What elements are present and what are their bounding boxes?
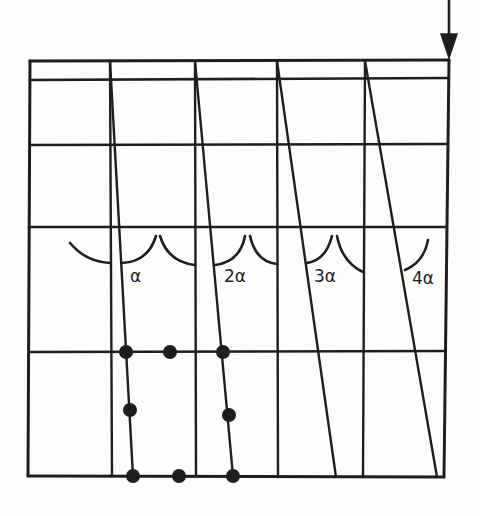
node-bot-3 xyxy=(226,469,240,483)
angle-label-2alpha: 2α xyxy=(224,268,246,285)
node-bot-1 xyxy=(126,469,140,483)
node-mid-2 xyxy=(222,408,236,422)
sheared-diagonal-lines xyxy=(110,61,437,477)
load-arrow-icon xyxy=(441,0,457,58)
angle-arcs xyxy=(70,236,428,272)
node-top-1 xyxy=(119,345,133,359)
horizontal-grid-lines xyxy=(29,78,448,352)
node-bot-2 xyxy=(172,469,186,483)
figure-canvas: α 2α 3α 4α xyxy=(0,0,480,516)
node-top-3 xyxy=(216,345,230,359)
node-top-2 xyxy=(163,345,177,359)
grid-diagram xyxy=(0,0,480,516)
angle-label-3alpha: 3α xyxy=(314,268,336,285)
node-mid-1 xyxy=(123,403,137,417)
angle-label-4alpha: 4α xyxy=(412,270,434,287)
angle-label-alpha: α xyxy=(130,268,141,285)
